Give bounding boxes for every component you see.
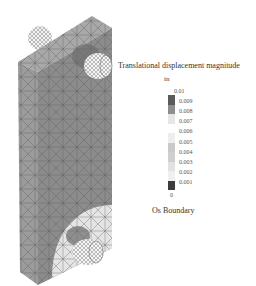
color-band [168, 133, 175, 143]
legend-tick: 0.003 [179, 159, 193, 165]
legend-tick: 0.004 [179, 149, 193, 155]
legend-min-label: 0 [170, 192, 173, 198]
color-band [168, 143, 175, 153]
legend-unit: in [164, 75, 169, 83]
color-band [168, 114, 175, 124]
bottom-front-pin [72, 239, 104, 265]
legend-tick: 0.006 [179, 128, 193, 134]
legend-tick: 0.008 [179, 108, 193, 114]
legend-tick: 0.001 [179, 179, 193, 185]
legend-tick: 0.009 [179, 98, 193, 104]
color-band [168, 105, 175, 115]
color-band [168, 152, 175, 162]
boundary-label: Os Boundary [152, 206, 194, 215]
color-band [168, 171, 175, 181]
legend-tick: 0.007 [179, 118, 193, 124]
legend-tick: 0.002 [179, 169, 193, 175]
legend-max-label: 0.01 [174, 88, 185, 94]
color-band [168, 181, 175, 191]
color-band [168, 95, 175, 105]
legend-title: Translational displacement magnitude [118, 61, 240, 70]
color-scale-bar [168, 95, 175, 190]
legend-tick: 0.005 [179, 139, 193, 145]
color-band [168, 124, 175, 134]
fea-model-view [0, 0, 140, 286]
color-band [168, 162, 175, 172]
top-front-pin [84, 53, 112, 79]
